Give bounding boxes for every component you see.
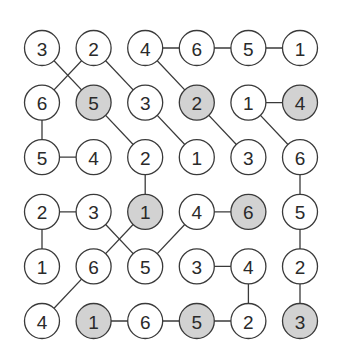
number-cell[interactable]: 3 [128, 85, 163, 120]
number-cell[interactable]: 4 [128, 31, 163, 66]
cell-number: 3 [295, 312, 306, 333]
number-cell[interactable]: 4 [231, 249, 266, 284]
number-cell[interactable]: 2 [231, 304, 266, 339]
shaded-number-cell[interactable]: 1 [76, 304, 111, 339]
shaded-number-cell[interactable]: 6 [231, 194, 266, 229]
cell-number: 2 [88, 39, 99, 60]
shaded-number-cell[interactable]: 1 [128, 194, 163, 229]
cell-number: 4 [243, 257, 254, 278]
cell-number: 5 [192, 312, 203, 333]
cell-number: 1 [295, 39, 306, 60]
cell-number: 3 [192, 257, 203, 278]
cell-number: 1 [243, 93, 254, 114]
number-cell[interactable]: 1 [25, 249, 60, 284]
shaded-number-cell[interactable]: 5 [76, 85, 111, 120]
cell-number: 2 [243, 312, 254, 333]
number-cell[interactable]: 1 [179, 140, 214, 175]
cell-number: 6 [88, 257, 99, 278]
shaded-number-cell[interactable]: 3 [283, 304, 318, 339]
cell-number: 1 [140, 202, 151, 223]
cell-number: 5 [295, 202, 306, 223]
cell-number: 6 [140, 312, 151, 333]
cell-number: 4 [192, 202, 203, 223]
number-cell[interactable]: 6 [179, 31, 214, 66]
shaded-number-cell[interactable]: 4 [283, 85, 318, 120]
shaded-number-cell[interactable]: 5 [179, 304, 214, 339]
number-cell[interactable]: 3 [179, 249, 214, 284]
cell-number: 5 [88, 93, 99, 114]
shaded-number-cell[interactable]: 2 [179, 85, 214, 120]
puzzle-grid: 324651653214542136231465165342416523 [0, 0, 361, 348]
cell-number: 6 [37, 93, 48, 114]
number-cell[interactable]: 5 [25, 140, 60, 175]
number-cell[interactable]: 3 [25, 31, 60, 66]
cell-number: 3 [140, 93, 151, 114]
number-cell[interactable]: 4 [25, 304, 60, 339]
cell-number: 3 [37, 39, 48, 60]
cell-number: 6 [243, 202, 254, 223]
cell-number: 3 [88, 202, 99, 223]
puzzle-board: 324651653214542136231465165342416523 [0, 0, 361, 348]
cell-number: 6 [295, 148, 306, 169]
cell-number: 5 [37, 148, 48, 169]
number-cell[interactable]: 4 [76, 140, 111, 175]
cell-number: 2 [295, 257, 306, 278]
cell-number: 2 [192, 93, 203, 114]
connection-lines [42, 48, 300, 321]
cell-number: 4 [37, 312, 48, 333]
cell-number: 2 [140, 148, 151, 169]
number-cell[interactable]: 6 [128, 304, 163, 339]
number-cell[interactable]: 3 [76, 194, 111, 229]
number-cell[interactable]: 2 [283, 249, 318, 284]
cell-number: 5 [243, 39, 254, 60]
cell-number: 4 [88, 148, 99, 169]
number-cell[interactable]: 4 [179, 194, 214, 229]
number-cell[interactable]: 2 [25, 194, 60, 229]
number-cell[interactable]: 6 [76, 249, 111, 284]
number-cell[interactable]: 6 [283, 140, 318, 175]
cell-number: 1 [192, 148, 203, 169]
cell-number: 4 [295, 93, 306, 114]
number-cell[interactable]: 3 [231, 140, 266, 175]
number-cell[interactable]: 1 [283, 31, 318, 66]
cell-number: 5 [140, 257, 151, 278]
number-cell[interactable]: 6 [25, 85, 60, 120]
cell-number: 1 [88, 312, 99, 333]
number-cell[interactable]: 5 [128, 249, 163, 284]
cell-number: 4 [140, 39, 151, 60]
number-cell[interactable]: 1 [231, 85, 266, 120]
cell-number: 3 [243, 148, 254, 169]
cell-number: 6 [192, 39, 203, 60]
number-cell[interactable]: 5 [283, 194, 318, 229]
number-cell[interactable]: 5 [231, 31, 266, 66]
cell-number: 1 [37, 257, 48, 278]
cell-number: 2 [37, 202, 48, 223]
number-cell[interactable]: 2 [76, 31, 111, 66]
number-cell[interactable]: 2 [128, 140, 163, 175]
